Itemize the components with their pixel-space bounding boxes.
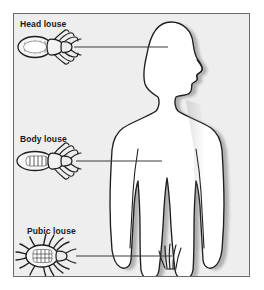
figure-frame <box>13 13 250 277</box>
label-body-louse: Body louse <box>20 134 67 144</box>
lice-anatomy-figure: Head louse Body louse Pubic louse <box>0 0 264 290</box>
label-pubic-louse: Pubic louse <box>27 226 76 236</box>
label-head-louse: Head louse <box>20 19 66 29</box>
